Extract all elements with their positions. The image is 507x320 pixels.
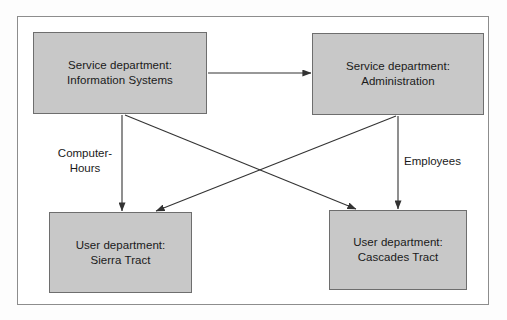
box-administration-line2: Administration bbox=[361, 74, 435, 89]
box-information-systems-line2: Information Systems bbox=[67, 73, 173, 88]
edge-label-employees-line1: Employees bbox=[404, 155, 461, 167]
box-sierra-tract-line2: Sierra Tract bbox=[90, 253, 150, 268]
box-administration-line1: Service department: bbox=[346, 59, 450, 74]
box-information-systems[interactable]: Service department: Information Systems bbox=[33, 32, 207, 114]
box-sierra-tract[interactable]: User department: Sierra Tract bbox=[49, 212, 192, 293]
box-sierra-tract-line1: User department: bbox=[76, 238, 166, 253]
edge-label-employees: Employees bbox=[404, 154, 484, 169]
edge-label-computer-hours: Computer- Hours bbox=[44, 146, 126, 176]
box-cascades-tract[interactable]: User department: Cascades Tract bbox=[329, 210, 467, 290]
edge-label-computer-hours-line2: Hours bbox=[70, 162, 101, 174]
diagram-root: Service department: Information Systems … bbox=[0, 0, 507, 320]
box-administration[interactable]: Service department: Administration bbox=[312, 33, 484, 115]
box-information-systems-line1: Service department: bbox=[68, 58, 172, 73]
box-cascades-tract-line2: Cascades Tract bbox=[358, 250, 439, 265]
edge-label-computer-hours-line1: Computer- bbox=[58, 147, 112, 159]
box-cascades-tract-line1: User department: bbox=[353, 235, 443, 250]
